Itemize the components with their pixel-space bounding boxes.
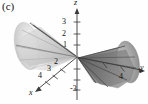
z-tick-label-3: 3: [62, 18, 66, 26]
panel-label: (c): [2, 1, 14, 12]
z-axis-label: z: [74, 0, 77, 7]
figure-panel: (c) z x y 3 2 1 -3 2 3 4 4: [0, 0, 148, 104]
x-axis-label: x: [29, 89, 33, 97]
z-tick-label-1: 1: [63, 41, 67, 49]
z-tick-label-2: 2: [62, 30, 66, 38]
y-axis-label: y: [140, 64, 144, 72]
x-tick-label-2: 2: [54, 58, 58, 66]
y-tick-label-4: 4: [119, 73, 123, 81]
z-tick-label-minus-3: -3: [70, 85, 77, 93]
x-tick-label-3: 3: [47, 65, 51, 73]
x-tick-label-4: 4: [38, 72, 42, 80]
